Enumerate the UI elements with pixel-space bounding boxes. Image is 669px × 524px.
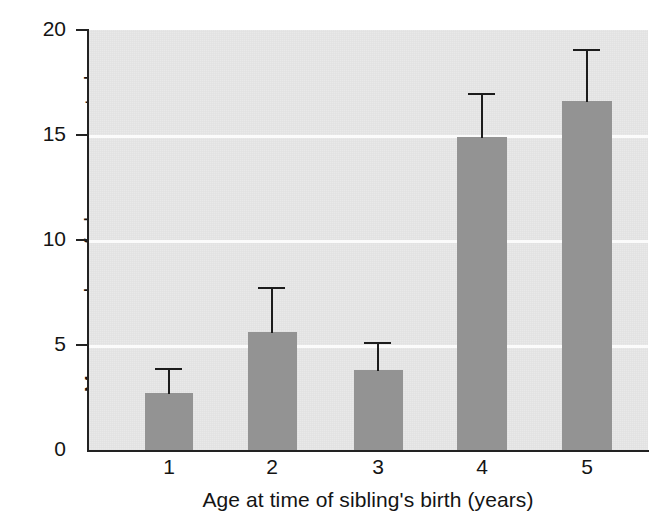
y-tick-mark-15 xyxy=(76,134,89,136)
x-tick-label-1: 1 xyxy=(149,455,189,479)
y-tick-label-0: 0 xyxy=(0,437,66,461)
error-bar-stem-2 xyxy=(271,288,273,333)
x-axis-line xyxy=(87,450,649,452)
y-tick-label-10: 10 xyxy=(0,227,66,251)
error-bar-cap-4 xyxy=(468,93,495,95)
error-bar-cap-2 xyxy=(258,287,285,289)
y-tick-mark-10 xyxy=(76,239,89,241)
error-bar-cap-3 xyxy=(364,342,391,344)
error-bar-stem-4 xyxy=(481,94,483,138)
x-tick-label-2: 2 xyxy=(252,455,292,479)
x-axis-title: Age at time of sibling's birth (years) xyxy=(88,488,648,512)
bar-category-4 xyxy=(457,137,507,450)
y-tick-label-20: 20 xyxy=(0,17,66,41)
error-bar-stem-5 xyxy=(586,50,588,102)
bar-category-1 xyxy=(145,393,193,450)
y-tick-label-5: 5 xyxy=(0,332,66,356)
bar-category-3 xyxy=(354,370,403,450)
chart-figure: Mean number of clauses reported 20 15 10… xyxy=(0,0,669,524)
x-tick-label-4: 4 xyxy=(462,455,502,479)
y-tick-mark-20 xyxy=(76,29,89,31)
error-bar-stem-3 xyxy=(377,343,379,371)
y-tick-mark-5 xyxy=(76,344,89,346)
x-tick-label-5: 5 xyxy=(567,455,607,479)
bar-category-5 xyxy=(562,101,612,450)
error-bar-cap-5 xyxy=(573,49,600,51)
y-tick-label-15: 15 xyxy=(0,122,66,146)
error-bar-cap-1 xyxy=(155,368,182,370)
error-bar-stem-1 xyxy=(168,369,170,394)
x-tick-label-3: 3 xyxy=(358,455,398,479)
bar-category-2 xyxy=(248,332,297,450)
